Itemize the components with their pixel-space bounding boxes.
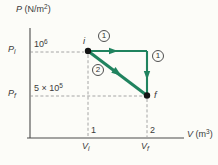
pi-value-label: 106 [34,40,48,49]
pv-diagram-figure: P (N/m2) V (m3) Pi 106 Pf 5 × 105 1 2 Vi… [0,0,218,165]
vf-symbol-label: Vf [141,142,149,151]
path1-badge-right: 1 [152,50,164,62]
vi-symbol-label: Vi [82,142,90,151]
point-f-label: f [154,90,157,100]
pi-symbol-label: Pi [8,45,16,54]
pf-value-label: 5 × 105 [34,84,63,93]
y-axis-label: P (N/m2) [16,5,51,14]
path1-down-arrowhead [144,71,150,80]
path1-right-arrowhead [109,48,118,54]
vi-subscript: i [88,145,90,152]
point-i-label: i [83,36,85,46]
path2-badge: 2 [92,64,104,76]
x-axis-unit: (m [193,129,206,139]
path1-badge-top: 1 [98,30,110,42]
pi-value-base: 10 [34,39,44,49]
pf-value-exponent: 5 [59,82,63,89]
pf-symbol-label: Pf [8,89,16,98]
point-i-dot [85,48,91,54]
x-tick-2: 2 [150,126,155,135]
pf-subscript: f [14,92,16,99]
x-axis-label: V (m3) [187,130,213,139]
point-f-dot [144,92,150,98]
pi-value-exponent: 6 [44,38,48,45]
pi-subscript: i [14,48,16,55]
y-axis-unit-close: ) [48,4,51,14]
pf-value-base: 5 × 10 [34,83,59,93]
vf-subscript: f [147,145,149,152]
x-axis-unit-close: ) [210,129,213,139]
diagram-canvas [0,0,218,165]
y-axis-unit: (N/m [22,4,44,14]
x-tick-1: 1 [91,126,96,135]
